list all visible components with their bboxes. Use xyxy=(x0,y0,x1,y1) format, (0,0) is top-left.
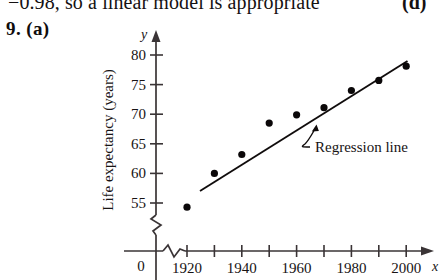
annotation-arrowhead xyxy=(312,125,319,132)
y-axis-arrowhead xyxy=(152,30,161,42)
data-point xyxy=(403,63,410,70)
y-tick-label: 80 xyxy=(131,47,146,63)
y-tick-label: 65 xyxy=(131,136,146,152)
y-axis-variable: y xyxy=(139,27,148,42)
data-point xyxy=(293,111,300,118)
x-tick-label: 1980 xyxy=(336,260,366,276)
y-tick-label: 55 xyxy=(131,195,146,211)
y-tick-label: 70 xyxy=(131,106,146,122)
data-point xyxy=(211,170,218,177)
scatter-plot-figure: y 80 75 70 65 60 55 Life expec xyxy=(0,0,446,280)
data-point xyxy=(238,151,245,158)
data-point-group xyxy=(183,63,409,211)
data-point xyxy=(320,104,327,111)
x-axis-variable: x xyxy=(431,259,439,274)
y-tick-label: 75 xyxy=(131,77,146,93)
data-point xyxy=(183,204,190,211)
x-tick-label: 1960 xyxy=(282,260,312,276)
x-tick-label: 2000 xyxy=(391,260,421,276)
x-tick-label: 1940 xyxy=(227,260,257,276)
y-axis-break-mark xyxy=(151,215,161,235)
data-point xyxy=(375,77,382,84)
regression-line-annotation: Regression line xyxy=(302,125,408,156)
data-point xyxy=(348,87,355,94)
x-axis: 0 x 1920 1940 1960 xyxy=(124,245,439,276)
annotation-label: Regression line xyxy=(315,139,408,155)
y-axis: y 80 75 70 65 60 55 Life expec xyxy=(100,27,163,280)
origin-label: 0 xyxy=(137,258,145,274)
y-tick-label: 60 xyxy=(131,165,146,181)
answer-key-figure-page: −0.98, so a linear model is appropriate … xyxy=(0,0,446,280)
y-axis-title: Life expectancy (years) xyxy=(100,69,117,211)
data-point xyxy=(266,120,273,127)
x-tick-label: 1920 xyxy=(172,260,202,276)
x-axis-break-mark xyxy=(163,245,185,257)
x-axis-arrowhead xyxy=(421,247,434,256)
